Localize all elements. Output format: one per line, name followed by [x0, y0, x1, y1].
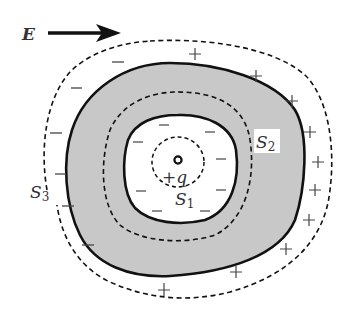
charge-label: +q — [162, 167, 187, 187]
gauss-conductor-diagram: E +q S1 S2 S3 — [0, 0, 351, 323]
label-s2: S2 — [254, 129, 280, 154]
svg-text:+q: +q — [162, 167, 187, 187]
field-arrow-icon — [48, 24, 121, 42]
field-label: E — [21, 24, 36, 44]
svg-text:S1: S1 — [175, 189, 194, 211]
point-charge-icon — [174, 156, 181, 163]
label-s1: S1 — [175, 189, 194, 211]
